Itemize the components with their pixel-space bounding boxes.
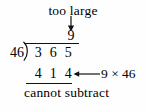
- product-digit: 4: [31, 66, 46, 82]
- long-division-figure: too large 9 46 365 414 9 × 46 cannot sub…: [0, 0, 146, 112]
- dividend-row: 365: [31, 45, 76, 61]
- product-annotation: 9 × 46: [101, 66, 136, 82]
- product-digit: 1: [46, 66, 61, 82]
- divisor-value: 46: [2, 45, 24, 61]
- dividend-digit: 3: [31, 45, 46, 61]
- quotient-digit: 9: [62, 28, 80, 43]
- dividend-digit: 6: [46, 45, 61, 61]
- cannot-subtract-label: cannot subtract: [24, 85, 109, 101]
- division-bracket-icon: [23, 41, 31, 61]
- product-row: 414: [31, 66, 76, 82]
- division-overbar: [24, 43, 79, 44]
- dividend-digit: 5: [61, 45, 76, 61]
- arrow-left-icon: [73, 66, 100, 82]
- subtraction-rule-line: [26, 83, 72, 84]
